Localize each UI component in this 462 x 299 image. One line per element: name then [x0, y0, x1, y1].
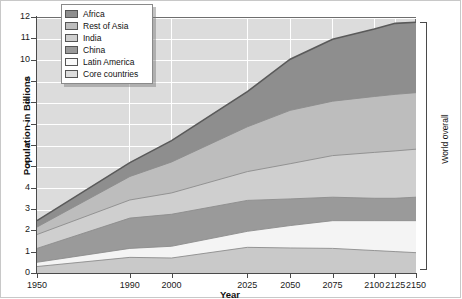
x-tick — [172, 273, 173, 278]
x-tick — [333, 273, 334, 278]
legend-item-label: Rest of Asia — [83, 22, 128, 31]
legend-item: Rest of Asia — [65, 20, 148, 32]
y-tick — [31, 188, 36, 189]
y-tick-label: 1 — [0, 247, 30, 256]
y-tick — [31, 252, 36, 253]
world-overall-bracket — [420, 22, 427, 270]
x-tick-label: 2075 — [313, 280, 353, 290]
x-tick-label: 1990 — [110, 280, 150, 290]
legend-swatch-icon — [65, 10, 78, 18]
y-tick — [31, 17, 36, 18]
y-tick-label: 11 — [0, 33, 30, 42]
legend-item-label: China — [83, 46, 105, 55]
x-axis-title: Year — [150, 289, 310, 299]
legend-item: China — [65, 44, 148, 56]
y-axis-title: Population in Billions — [21, 56, 32, 196]
y-tick — [31, 166, 36, 167]
legend-item: Africa — [65, 8, 148, 20]
x-tick — [37, 273, 38, 278]
legend-swatch-icon — [65, 70, 78, 78]
y-tick — [31, 209, 36, 210]
y-axis-line — [36, 16, 37, 274]
y-tick-label: 0 — [0, 268, 30, 277]
x-tick — [247, 273, 248, 278]
legend-item-label: India — [83, 34, 101, 43]
y-tick — [31, 273, 36, 274]
legend-item-label: Core countries — [83, 70, 138, 79]
legend-swatch-icon — [65, 22, 78, 30]
x-tick — [374, 273, 375, 278]
chart-legend: AfricaRest of AsiaIndiaChinaLatin Americ… — [61, 4, 153, 84]
x-tick-label: 2150 — [396, 280, 436, 290]
x-tick — [290, 273, 291, 278]
y-tick — [31, 102, 36, 103]
legend-item-label: Africa — [83, 10, 105, 19]
legend-swatch-icon — [65, 46, 78, 54]
y-tick — [31, 124, 36, 125]
y-tick — [31, 230, 36, 231]
y-tick-label: 12 — [0, 12, 30, 21]
legend-item-label: Latin America — [83, 58, 135, 67]
world-overall-label: World overall — [440, 79, 450, 199]
x-tick — [130, 273, 131, 278]
y-tick — [31, 60, 36, 61]
y-tick — [31, 38, 36, 39]
legend-item: Core countries — [65, 68, 148, 80]
population-area-chart: 0123456789101112 19501990200020252050207… — [0, 0, 462, 299]
x-tick-label: 1950 — [17, 280, 57, 290]
legend-swatch-icon — [65, 58, 78, 66]
y-tick — [31, 145, 36, 146]
x-axis-line — [36, 273, 417, 274]
y-tick — [31, 81, 36, 82]
x-tick — [395, 273, 396, 278]
legend-swatch-icon — [65, 34, 78, 42]
legend-item: India — [65, 32, 148, 44]
y-tick-label: 2 — [0, 225, 30, 234]
legend-item: Latin America — [65, 56, 148, 68]
y-tick-label: 3 — [0, 204, 30, 213]
x-tick — [416, 273, 417, 278]
